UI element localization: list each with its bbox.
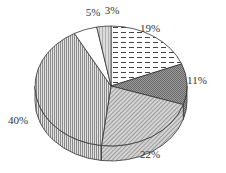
slice-label-3: 40%	[8, 114, 28, 126]
slice-label-5: 3%	[105, 4, 120, 16]
slice-label-2: 22%	[140, 148, 160, 160]
pie-top-face	[35, 26, 187, 146]
slice-label-0: 19%	[140, 22, 160, 34]
slice-label-1: 11%	[187, 74, 207, 86]
pie-chart: 19%11%22%40%5%3%	[0, 0, 226, 173]
slice-label-4: 5%	[86, 6, 101, 18]
